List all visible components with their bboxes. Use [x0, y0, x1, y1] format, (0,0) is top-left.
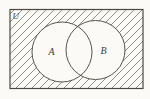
set-a-label: A [48, 46, 56, 57]
venn-diagram-canvas: U A B [0, 0, 150, 99]
set-b-label: B [101, 45, 107, 56]
universe-label: U [13, 11, 20, 21]
venn-diagram-figure: U A B [0, 0, 150, 99]
